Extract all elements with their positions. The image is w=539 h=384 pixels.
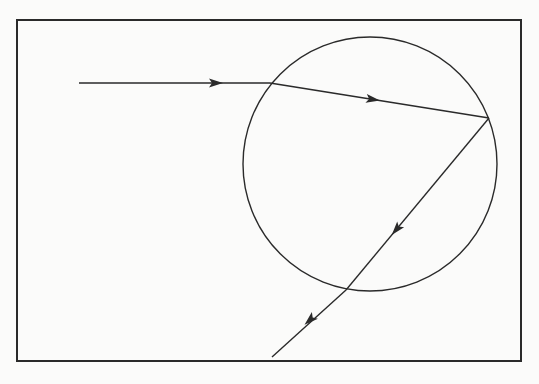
arrow-down-left-icon xyxy=(301,312,317,328)
reflected-ray xyxy=(346,118,489,290)
ray-diagram xyxy=(0,0,539,384)
exiting-ray xyxy=(272,290,346,357)
diagram-frame xyxy=(17,20,521,361)
refracted-ray xyxy=(270,83,489,118)
arrow-right-icon xyxy=(365,94,380,105)
droplet-circle xyxy=(243,37,497,291)
incident-ray xyxy=(79,79,270,88)
